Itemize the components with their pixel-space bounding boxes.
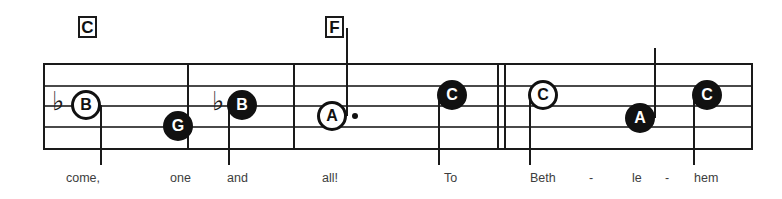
music-sheet: CF ♭♭ BGBACCAC come,oneandall!ToBeth-le-… <box>0 0 782 199</box>
staff-line-5 <box>43 148 751 150</box>
lyric-syllable-10: hem <box>694 172 718 185</box>
barline-6 <box>751 63 753 150</box>
staff-line-2 <box>43 85 751 87</box>
lyric-syllable-9: - <box>665 172 669 185</box>
note-c-6[interactable]: C <box>528 80 558 110</box>
lyric-syllable-1: come, <box>66 172 100 185</box>
note-a-4[interactable]: A <box>317 101 347 131</box>
barline-3 <box>293 63 295 150</box>
note-c-5[interactable]: C <box>437 80 467 110</box>
flat-icon: ♭ <box>212 88 224 114</box>
barline-4 <box>497 63 499 150</box>
chord-symbol-f[interactable]: F <box>325 16 344 38</box>
note-c-8[interactable]: C <box>692 80 722 110</box>
lyric-syllable-5: To <box>444 172 457 185</box>
note-b-3[interactable]: B <box>227 90 257 120</box>
barline-5 <box>504 63 506 150</box>
lyric-syllable-3: and <box>227 172 248 185</box>
lyric-syllable-4: all! <box>322 172 338 185</box>
flat-icon: ♭ <box>52 88 64 114</box>
note-g-2[interactable]: G <box>163 111 193 141</box>
chord-symbol-c[interactable]: C <box>78 16 97 38</box>
note-stem-a-4 <box>346 28 348 116</box>
staff-line-1 <box>43 63 751 65</box>
note-stem-b-1 <box>100 105 102 165</box>
note-stem-c-8 <box>693 95 695 165</box>
lyric-syllable-8: le <box>632 172 642 185</box>
note-stem-c-6 <box>529 95 531 165</box>
lyric-syllable-2: one <box>170 172 191 185</box>
lyric-syllable-6: Beth <box>530 172 556 185</box>
note-a-7[interactable]: A <box>625 103 655 133</box>
note-stem-a-7 <box>654 48 656 118</box>
note-b-1[interactable]: B <box>71 90 101 120</box>
barline-1 <box>43 63 45 150</box>
augmentation-dot-4 <box>352 113 358 119</box>
lyric-syllable-7: - <box>589 172 593 185</box>
note-stem-c-5 <box>438 95 440 165</box>
